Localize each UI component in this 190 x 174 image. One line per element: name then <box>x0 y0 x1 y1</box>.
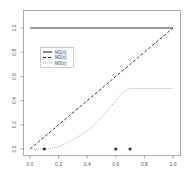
y-tick-label: 0.8 <box>11 49 17 56</box>
y-tick-label: 0.4 <box>11 97 17 104</box>
x-tick-label: 0.8 <box>141 161 148 167</box>
y-axis: 0.00.20.40.60.81.0 <box>11 24 23 152</box>
series-line-m3x <box>30 89 173 150</box>
series-line-m2x <box>30 28 173 149</box>
plot-frame <box>24 11 181 156</box>
data-point <box>43 147 46 150</box>
x-tick-label: 0.0 <box>27 161 34 167</box>
x-axis: 0.00.20.40.60.81.0 <box>27 156 177 168</box>
x-tick-label: 1.0 <box>170 161 177 167</box>
sample-points <box>43 147 132 150</box>
legend-label: M2(x) <box>55 55 67 60</box>
data-point <box>129 147 132 150</box>
legend-label: M1(x) <box>55 50 67 55</box>
y-tick-label: 0.6 <box>11 73 17 80</box>
legend: M1(x)M2(x)M3(x) <box>41 48 74 68</box>
x-tick-label: 0.2 <box>55 161 62 167</box>
y-tick-label: 0.2 <box>11 121 17 128</box>
chart: 0.00.20.40.60.81.0 0.00.20.40.60.81.0 M1… <box>0 0 190 174</box>
legend-label: M3(x) <box>55 61 67 66</box>
series-group <box>30 28 173 149</box>
x-tick-label: 0.6 <box>112 161 119 167</box>
x-tick-label: 0.4 <box>84 161 91 167</box>
y-tick-label: 0.0 <box>11 145 17 152</box>
data-point <box>114 147 117 150</box>
y-tick-label: 1.0 <box>11 24 17 31</box>
